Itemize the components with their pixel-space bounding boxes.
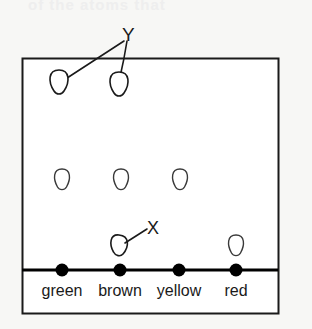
dot-red-marker (230, 264, 243, 277)
balloon-top-mid-icon (110, 72, 128, 96)
dot-brown-marker (114, 264, 127, 277)
annotation-y-label: Y (122, 24, 135, 45)
axis-label-green: green (42, 282, 83, 299)
axis-label-brown: brown (98, 282, 142, 299)
balloon-mid-green-icon (55, 169, 70, 190)
axis-label-yellow: yellow (157, 282, 202, 299)
dot-green-marker (56, 264, 69, 277)
balloon-mid-yellow-icon (173, 169, 188, 190)
annotation-x-label: X (147, 218, 159, 238)
balloon-mid-brown-icon (114, 169, 129, 190)
figure-canvas: Y X green brown yellow red (0, 0, 312, 329)
axis-label-red: red (224, 282, 247, 299)
dot-yellow-marker (173, 264, 186, 277)
balloon-top-left-icon (50, 70, 68, 94)
balloon-low-red-icon (229, 235, 244, 256)
balloon-low-brown-icon (111, 235, 128, 256)
